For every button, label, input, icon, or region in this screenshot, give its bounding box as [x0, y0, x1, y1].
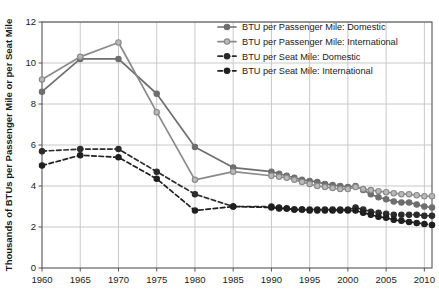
y-axis-tick-label: 10 [25, 57, 36, 68]
y-axis-tick-label: 4 [31, 180, 36, 191]
series-marker-0 [422, 204, 427, 209]
series-marker-3 [383, 215, 388, 220]
y-axis-tick-label: 0 [31, 262, 36, 273]
x-axis-tick-label: 2010 [414, 274, 435, 285]
x-axis-tick-label: 1960 [31, 274, 52, 285]
x-axis-tick-label: 1965 [70, 274, 91, 285]
x-axis-tick-label: 1975 [146, 274, 167, 285]
legend-marker-0 [224, 24, 229, 29]
series-marker-3 [429, 222, 434, 227]
series-marker-3 [269, 205, 274, 210]
series-marker-1 [292, 177, 297, 182]
series-marker-3 [414, 220, 419, 225]
series-marker-1 [315, 183, 320, 188]
legend-label-0: BTU per Passenger Mile: Domestic [242, 22, 386, 32]
x-axis-tick-label: 2000 [337, 274, 358, 285]
series-marker-2 [154, 169, 159, 174]
series-marker-1 [399, 192, 404, 197]
series-marker-1 [422, 194, 427, 199]
series-marker-1 [368, 187, 373, 192]
series-marker-3 [276, 206, 281, 211]
series-marker-1 [330, 185, 335, 190]
legend-label-1: BTU per Passenger Mile: International [242, 37, 398, 47]
series-marker-0 [39, 89, 44, 94]
series-marker-1 [39, 77, 44, 82]
series-marker-1 [322, 184, 327, 189]
series-marker-3 [406, 219, 411, 224]
series-marker-3 [322, 208, 327, 213]
series-marker-1 [345, 186, 350, 191]
series-marker-0 [376, 195, 381, 200]
series-marker-2 [39, 148, 44, 153]
series-marker-1 [429, 194, 434, 199]
series-marker-2 [78, 146, 83, 151]
series-marker-2 [429, 213, 434, 218]
x-axis-tick-label: 2005 [376, 274, 397, 285]
x-axis-tick-label: 1995 [299, 274, 320, 285]
series-marker-2 [414, 212, 419, 217]
legend-marker-3 [224, 68, 229, 73]
chart-container: 0246810121960196519701975198019851990199… [0, 0, 439, 300]
series-marker-3 [116, 155, 121, 160]
series-marker-2 [406, 212, 411, 217]
series-marker-3 [353, 208, 358, 213]
series-marker-0 [399, 200, 404, 205]
series-marker-3 [78, 153, 83, 158]
y-axis-tick-label: 12 [25, 16, 36, 27]
series-marker-1 [391, 190, 396, 195]
series-marker-0 [429, 205, 434, 210]
series-marker-0 [154, 91, 159, 96]
series-marker-3 [230, 204, 235, 209]
series-marker-1 [192, 177, 197, 182]
series-marker-3 [399, 218, 404, 223]
series-marker-1 [376, 188, 381, 193]
series-marker-3 [292, 207, 297, 212]
series-marker-2 [192, 192, 197, 197]
series-marker-3 [360, 210, 365, 215]
line-chart: 0246810121960196519701975198019851990199… [0, 0, 439, 300]
series-marker-0 [192, 144, 197, 149]
x-axis-tick-label: 1985 [223, 274, 244, 285]
series-marker-3 [376, 214, 381, 219]
x-axis-tick-label: 1970 [108, 274, 129, 285]
series-marker-1 [383, 189, 388, 194]
series-marker-1 [414, 193, 419, 198]
series-marker-0 [116, 56, 121, 61]
y-axis-tick-label: 6 [31, 139, 36, 150]
legend-label-2: BTU per Seat Mile: Domestic [242, 52, 361, 62]
series-marker-1 [360, 186, 365, 191]
series-marker-3 [192, 208, 197, 213]
series-marker-2 [399, 212, 404, 217]
legend-marker-1 [224, 39, 229, 44]
series-marker-1 [116, 40, 121, 45]
series-marker-3 [315, 208, 320, 213]
series-marker-2 [116, 146, 121, 151]
series-marker-1 [154, 110, 159, 115]
x-axis-tick-label: 1990 [261, 274, 282, 285]
series-marker-3 [338, 208, 343, 213]
series-marker-3 [307, 208, 312, 213]
series-marker-1 [78, 54, 83, 59]
series-marker-1 [338, 186, 343, 191]
series-marker-3 [284, 206, 289, 211]
series-marker-3 [422, 221, 427, 226]
legend-label-3: BTU per Seat Mile: International [242, 66, 373, 76]
y-axis-title: Thousands of BTUs per Passenger Mile or … [3, 19, 14, 271]
series-marker-1 [299, 179, 304, 184]
series-marker-0 [383, 197, 388, 202]
series-marker-3 [391, 217, 396, 222]
series-marker-1 [276, 174, 281, 179]
series-marker-1 [284, 175, 289, 180]
series-marker-1 [230, 169, 235, 174]
y-axis-tick-label: 2 [31, 221, 36, 232]
legend-marker-2 [224, 54, 229, 59]
series-marker-1 [406, 192, 411, 197]
series-marker-2 [422, 213, 427, 218]
x-axis-tick-label: 1980 [184, 274, 205, 285]
series-marker-0 [406, 200, 411, 205]
series-marker-0 [414, 202, 419, 207]
series-marker-3 [330, 208, 335, 213]
series-marker-1 [353, 184, 358, 189]
series-marker-3 [39, 163, 44, 168]
series-marker-3 [345, 208, 350, 213]
